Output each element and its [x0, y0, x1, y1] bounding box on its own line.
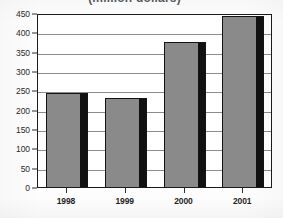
bar: [164, 42, 206, 187]
y-axis-tick-label: 300: [16, 67, 30, 77]
y-axis-tick-label: 150: [16, 125, 30, 135]
y-axis-tick-label: 0: [25, 183, 30, 193]
x-axis-tick-mark: [184, 188, 185, 193]
y-axis-tick-label: 350: [16, 48, 30, 58]
x-axis-tick-label: 1998: [57, 196, 76, 206]
y-axis-tick-label: 400: [16, 28, 30, 38]
bars-layer: [38, 15, 271, 187]
y-axis-tick-label: 200: [16, 106, 30, 116]
chart-title-clip: (million dollars): [0, 0, 283, 7]
y-axis-tick-mark: [32, 72, 37, 73]
y-axis-tick-mark: [32, 168, 37, 169]
y-axis-tick-mark: [32, 52, 37, 53]
bar-side-face: [198, 43, 205, 187]
y-axis-tick-label: 250: [16, 86, 30, 96]
y-axis-tick-mark: [32, 110, 37, 111]
y-axis-tick-label: 100: [16, 144, 30, 154]
bar-side-face: [80, 94, 87, 187]
bar: [46, 93, 88, 187]
x-axis-tick-mark: [66, 188, 67, 193]
bar-side-face: [139, 99, 146, 187]
bar-side-face: [256, 17, 263, 187]
x-axis-tick-label: 2000: [174, 196, 193, 206]
bar: [222, 16, 264, 187]
x-axis-tick-mark: [242, 188, 243, 193]
plot-area: [37, 14, 272, 188]
y-axis-tick-mark: [32, 130, 37, 131]
chart-title: (million dollars): [0, 0, 283, 5]
x-axis-tick-mark: [125, 188, 126, 193]
y-axis: 450400350300250200150100500: [0, 14, 37, 188]
x-axis: 1998199920002001: [37, 188, 272, 218]
y-axis-tick-label: 450: [16, 9, 30, 19]
y-axis-tick-mark: [32, 91, 37, 92]
y-axis-tick-label: 50: [21, 164, 30, 174]
y-axis-tick-mark: [32, 14, 37, 15]
y-axis-tick-mark: [32, 33, 37, 34]
bar: [105, 98, 147, 187]
x-axis-tick-label: 1999: [115, 196, 134, 206]
y-axis-tick-mark: [32, 149, 37, 150]
bar-chart-figure: (million dollars) 4504003503002502001501…: [0, 0, 283, 218]
x-axis-tick-label: 2001: [233, 196, 252, 206]
